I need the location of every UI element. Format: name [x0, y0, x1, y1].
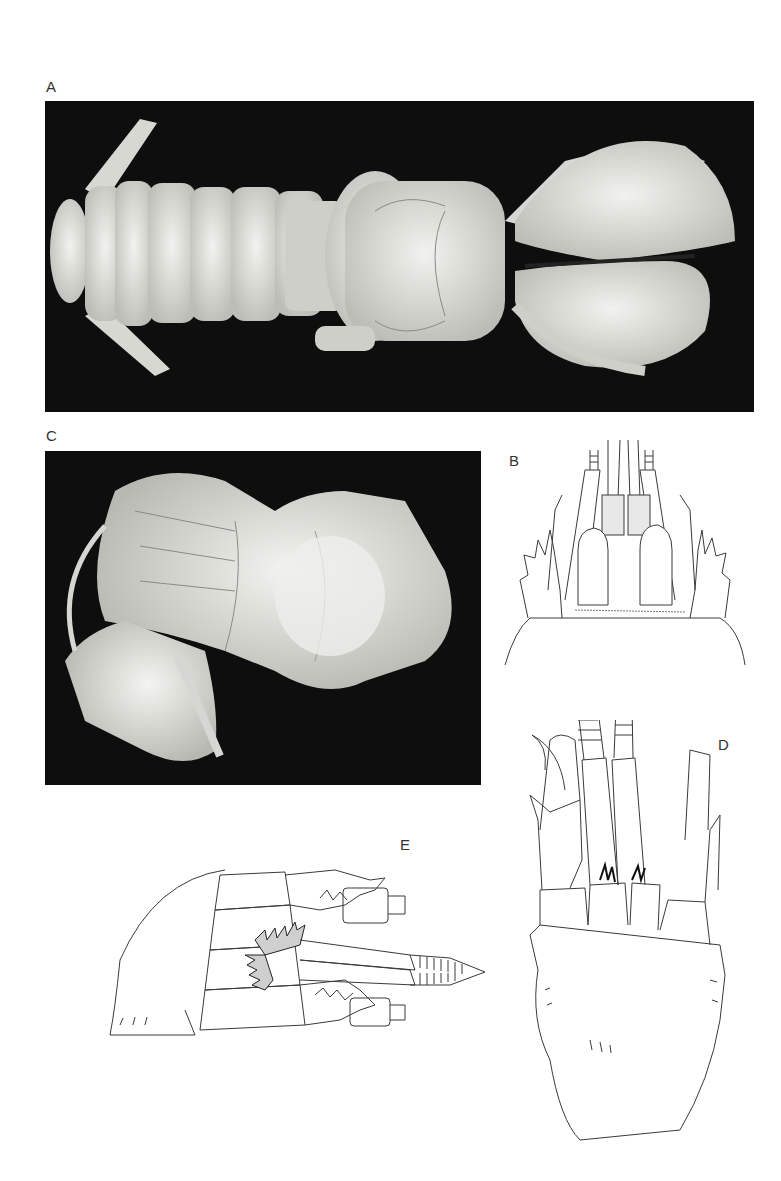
- panel-e-drawing: [105, 860, 495, 1040]
- panel-b-drawing: [490, 440, 770, 670]
- panel-label-e: E: [400, 836, 410, 853]
- panel-a-photo: [45, 101, 754, 412]
- panel-label-a: A: [46, 78, 56, 95]
- panel-d-drawing: [520, 720, 750, 1150]
- panel-label-c: C: [46, 427, 57, 444]
- panel-c-photo: [45, 451, 481, 785]
